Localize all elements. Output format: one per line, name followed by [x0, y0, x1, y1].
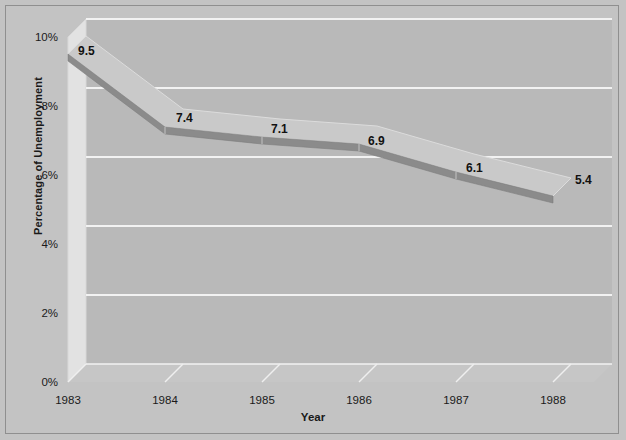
data-label-1987: 6.1 — [466, 161, 483, 175]
x-tick-label-1985: 1985 — [227, 394, 297, 406]
plot-left-wall — [68, 19, 86, 382]
data-label-1984: 7.4 — [176, 111, 193, 125]
y-tick-label-4: 4% — [10, 238, 58, 250]
data-label-1988: 5.4 — [575, 173, 592, 187]
y-tick-label-10: 10% — [10, 31, 58, 43]
y-tick-label-0: 0% — [10, 376, 58, 388]
plot-floor — [68, 364, 612, 382]
data-label-1985: 7.1 — [271, 122, 288, 136]
x-tick-label-1987: 1987 — [421, 394, 491, 406]
data-label-1983: 9.5 — [78, 44, 95, 58]
x-tick-label-1986: 1986 — [324, 394, 394, 406]
chart-figure: Percentage of Unemployment 10% 8% 6% 4% … — [0, 0, 626, 440]
x-tick-label-1988: 1988 — [518, 394, 588, 406]
data-label-1986: 6.9 — [368, 134, 385, 148]
x-tick-label-1983: 1983 — [33, 394, 103, 406]
chart-canvas — [0, 0, 626, 440]
y-tick-label-2: 2% — [10, 307, 58, 319]
y-tick-label-8: 8% — [10, 100, 58, 112]
chart-plot-area: Percentage of Unemployment 10% 8% 6% 4% … — [0, 0, 626, 440]
y-tick-label-6: 6% — [10, 169, 58, 181]
x-axis-title: Year — [0, 411, 626, 423]
x-tick-label-1984: 1984 — [130, 394, 200, 406]
